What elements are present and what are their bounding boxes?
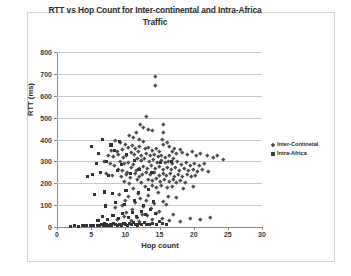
y-axis-tick-label: 300 [40,158,52,165]
x-axis-tick-label: 5 [89,231,93,238]
data-point [118,140,121,143]
data-point [113,206,117,210]
y-axis-tick [54,205,57,206]
data-point [105,160,108,163]
data-point [149,208,152,211]
data-point [162,177,166,181]
y-axis-title: RTT (ms) [26,83,35,116]
y-axis-tick [54,118,57,119]
data-point [188,216,192,220]
data-point [117,217,120,220]
data-point [113,149,116,152]
data-point [149,164,153,168]
data-point [175,195,179,199]
data-point [156,191,160,195]
data-point [164,156,168,160]
y-axis-tick-label: 500 [40,114,52,121]
data-point [161,142,165,146]
legend-item-inter-continental[interactable]: Inter-Continetal [271,140,318,149]
data-point [120,163,123,166]
data-point [170,184,174,188]
gridline [57,74,262,75]
data-point [139,196,143,200]
data-point [120,147,124,151]
data-point [169,172,173,176]
data-point [184,160,188,164]
data-point [90,145,93,148]
data-point [154,83,158,87]
y-axis-tick [54,161,57,162]
data-point [165,186,169,190]
data-point [135,215,138,218]
data-point [165,223,168,226]
legend-item-intra-africa[interactable]: Intra-Africa [271,149,318,158]
data-point [133,199,136,202]
data-point [154,212,157,215]
data-point [97,152,100,155]
y-axis-tick-label: 600 [40,92,52,99]
data-point [180,151,184,155]
data-point [174,152,178,156]
data-point [193,161,197,165]
y-axis-tick-label: 200 [40,180,52,187]
data-point [116,169,119,172]
data-point [126,195,130,199]
x-axis-tick [125,227,126,230]
data-point [132,153,136,157]
data-point [144,198,148,202]
data-point [209,216,213,220]
data-point [143,156,147,160]
data-point [151,179,155,183]
data-point [121,169,125,173]
y-axis-tick [54,96,57,97]
y-axis-tick [54,140,57,141]
data-point [129,172,132,175]
legend-label-intra-africa: Intra-Africa [277,149,307,158]
data-point [188,163,192,167]
data-point [182,187,186,191]
data-point [157,173,161,177]
data-point [104,204,107,207]
data-point [111,192,114,195]
data-point [211,156,215,160]
y-axis-tick-label: 0 [48,224,52,231]
data-point [137,191,140,194]
data-point [160,138,164,142]
x-axis-tick-label: 10 [121,231,129,238]
data-point [192,185,196,189]
gridline [57,140,262,141]
x-axis-title: Hop count [57,241,263,250]
data-point [199,217,203,221]
data-point [137,168,140,171]
chart-title-line1: RTT vs Hop Count for Inter-continental a… [30,4,280,16]
data-point [159,161,162,164]
data-point [202,162,206,166]
data-point [173,166,177,170]
data-point [142,204,145,207]
data-point [140,210,143,213]
square-marker-icon [271,152,275,156]
data-point [147,188,150,191]
y-axis-tick-label: 400 [40,136,52,143]
y-axis-tick-label: 100 [40,202,52,209]
data-point [117,152,121,156]
data-point [167,144,171,148]
data-point [125,153,128,156]
data-point [138,144,142,148]
data-point [124,173,128,177]
data-point [111,173,115,177]
data-point [185,153,189,157]
data-point [130,166,134,170]
gridline [57,96,262,97]
data-point [134,131,138,135]
data-point [86,175,89,178]
data-point [205,153,209,157]
data-point [173,146,177,150]
gridline [57,52,262,53]
y-axis-tick-label: 700 [40,70,52,77]
chart-title: RTT vs Hop Count for Inter-continental a… [30,4,280,28]
x-axis-tick [262,227,263,230]
data-point [147,193,151,197]
data-point [195,153,199,157]
data-point [127,216,130,219]
